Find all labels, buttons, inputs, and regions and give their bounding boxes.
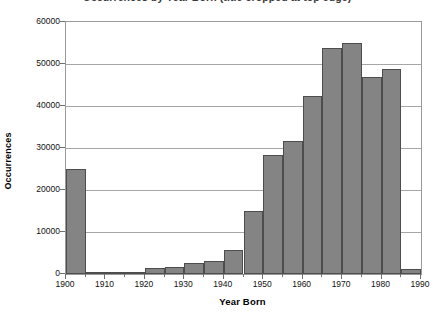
y-axis-tick-label: 20000: [4, 185, 60, 194]
bar: [224, 250, 244, 274]
bar: [66, 169, 86, 274]
bar: [165, 267, 185, 274]
x-axis-minor-tick-mark: [164, 274, 165, 277]
x-axis-tick-mark: [104, 274, 105, 279]
bar: [125, 272, 145, 274]
x-axis-tick-label: 1920: [124, 280, 164, 289]
y-axis-tick-label: 0: [4, 269, 60, 278]
x-axis-tick-label: 1930: [163, 280, 203, 289]
x-axis-tick-mark: [183, 274, 184, 279]
x-axis-tick-mark: [381, 274, 382, 279]
bar: [342, 43, 362, 274]
bar: [382, 69, 402, 274]
x-axis-title: Year Born: [65, 296, 420, 307]
x-axis-minor-tick-mark: [361, 274, 362, 277]
x-axis-minor-tick-mark: [321, 274, 322, 277]
x-axis-tick-label: 1900: [45, 280, 85, 289]
bar: [322, 48, 342, 274]
y-axis-tick-label: 30000: [4, 143, 60, 152]
x-axis-minor-tick-mark: [203, 274, 204, 277]
x-axis-minor-tick-mark: [282, 274, 283, 277]
plot-area: [65, 21, 422, 275]
x-axis-minor-tick-mark: [124, 274, 125, 277]
chart-container: Occurrences by Year Born (title cropped …: [0, 0, 434, 321]
y-axis-tick-label: 10000: [4, 227, 60, 236]
bar: [105, 272, 125, 274]
x-axis-minor-tick-mark: [85, 274, 86, 277]
bar: [145, 268, 165, 274]
x-axis-tick-label: 1990: [400, 280, 434, 289]
bar: [184, 263, 204, 274]
bar: [244, 211, 264, 274]
x-axis-tick-label: 1910: [84, 280, 124, 289]
x-axis-tick-label: 1950: [242, 280, 282, 289]
bar: [303, 96, 323, 274]
x-axis-tick-label: 1970: [321, 280, 361, 289]
x-axis-tick-label: 1960: [282, 280, 322, 289]
x-axis-tick-mark: [144, 274, 145, 279]
bar: [263, 155, 283, 274]
y-axis-tick-label: 60000: [4, 17, 60, 26]
bar: [401, 269, 421, 274]
x-axis-minor-tick-mark: [243, 274, 244, 277]
x-axis-tick-label: 1980: [361, 280, 401, 289]
chart-title: Occurrences by Year Born (title cropped …: [0, 0, 434, 3]
y-axis-tick-label: 40000: [4, 101, 60, 110]
x-axis-minor-tick-mark: [400, 274, 401, 277]
x-axis-tick-mark: [420, 274, 421, 279]
y-axis-title-text: Occurrences: [3, 132, 13, 189]
x-axis-tick-mark: [302, 274, 303, 279]
x-axis-tick-mark: [341, 274, 342, 279]
bar: [204, 261, 224, 274]
bar: [283, 141, 303, 274]
bar: [362, 77, 382, 274]
bar: [86, 272, 106, 274]
x-axis-tick-mark: [223, 274, 224, 279]
y-axis-tick-label: 50000: [4, 59, 60, 68]
x-axis-tick-mark: [262, 274, 263, 279]
x-axis-tick-mark: [65, 274, 66, 279]
x-axis-tick-label: 1940: [203, 280, 243, 289]
gridline: [66, 64, 421, 65]
